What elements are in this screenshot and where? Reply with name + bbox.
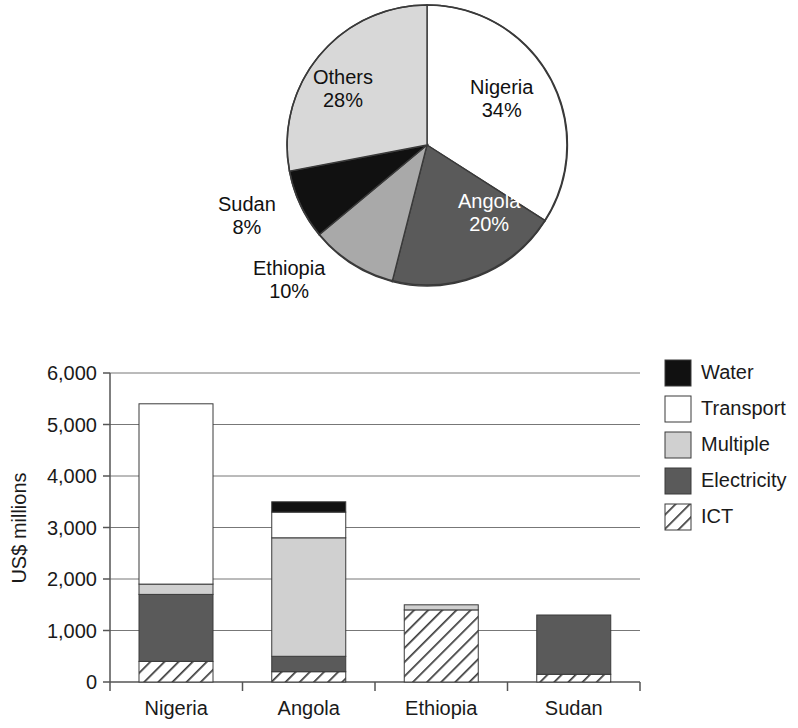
pie-label-sudan-name: Sudan [218, 193, 276, 215]
y-tick-3000: 3,000 [47, 517, 97, 539]
pie-label-angola-pct: 20% [458, 213, 520, 236]
bar-segment-angola-water [272, 502, 346, 512]
pie-label-nigeria-pct: 34% [470, 99, 533, 122]
y-tick-5000: 5,000 [47, 414, 97, 436]
y-axis-title: US$ millions [8, 472, 30, 583]
figure-container: Nigeria 34% Angola 20% Ethiopia 10% Suda… [0, 0, 798, 728]
pie-chart-svg [0, 0, 798, 330]
bar-segment-nigeria-ict [139, 661, 213, 682]
y-tick-labels: 6,000 5,000 4,000 3,000 2,000 1,000 0 [47, 362, 97, 693]
y-tick-2000: 2,000 [47, 568, 97, 590]
legend-label-ict: ICT [701, 505, 733, 527]
bar-group-nigeria [139, 404, 213, 682]
bar-chart: 6,000 5,000 4,000 3,000 2,000 1,000 0 US… [0, 330, 798, 728]
bar-segment-angola-ict [272, 672, 346, 682]
cat-label-sudan: Sudan [545, 697, 603, 719]
cat-label-angola: Angola [278, 697, 341, 719]
pie-label-nigeria: Nigeria 34% [470, 76, 533, 122]
y-axis [103, 373, 110, 682]
pie-label-ethiopia: Ethiopia 10% [253, 257, 325, 303]
bar-group-sudan [537, 615, 611, 682]
bar-segment-angola-multiple [272, 538, 346, 657]
legend-swatch-ict [665, 504, 691, 530]
bar-segment-ethiopia-ict [404, 610, 478, 682]
y-tick-4000: 4,000 [47, 465, 97, 487]
legend-swatch-water [665, 360, 691, 386]
y-tick-1000: 1,000 [47, 620, 97, 642]
pie-label-others-name: Others [313, 66, 373, 88]
legend-label-water: Water [701, 361, 754, 383]
pie-label-nigeria-name: Nigeria [470, 76, 533, 98]
pie-label-ethiopia-pct: 10% [253, 280, 325, 303]
legend-label-multiple: Multiple [701, 433, 770, 455]
bar-chart-svg: 6,000 5,000 4,000 3,000 2,000 1,000 0 US… [0, 330, 798, 728]
cat-label-ethiopia: Ethiopia [405, 697, 478, 719]
pie-label-sudan: Sudan 8% [218, 193, 276, 239]
x-category-labels: Nigeria Angola Ethiopia Sudan [145, 697, 603, 719]
cat-label-nigeria: Nigeria [145, 697, 209, 719]
bar-group-ethiopia [404, 605, 478, 682]
bar-segment-sudan-electricity [537, 615, 611, 674]
legend-swatch-electricity [665, 468, 691, 494]
pie-label-others-pct: 28% [313, 89, 373, 112]
pie-label-others: Others 28% [313, 66, 373, 112]
bar-segment-nigeria-multiple [139, 584, 213, 594]
legend: Water Transport Multiple Electricity ICT [665, 360, 787, 530]
y-tick-0: 0 [86, 671, 97, 693]
y-tick-6000: 6,000 [47, 362, 97, 384]
pie-chart: Nigeria 34% Angola 20% Ethiopia 10% Suda… [0, 0, 798, 330]
pie-label-angola: Angola 20% [458, 190, 520, 236]
bar-segment-sudan-ict [537, 674, 611, 682]
x-axis [110, 682, 640, 691]
pie-label-ethiopia-name: Ethiopia [253, 257, 325, 279]
pie-label-angola-name: Angola [458, 190, 520, 212]
bar-segment-ethiopia-multiple [404, 605, 478, 610]
bar-segment-nigeria-electricity [139, 594, 213, 661]
bar-segment-nigeria-transport [139, 404, 213, 584]
legend-swatch-multiple [665, 432, 691, 458]
legend-label-electricity: Electricity [701, 469, 787, 491]
pie-label-sudan-pct: 8% [218, 216, 276, 239]
bar-segment-angola-transport [272, 512, 346, 538]
bar-segment-angola-electricity [272, 656, 346, 671]
bar-group-angola [272, 502, 346, 682]
legend-swatch-transport [665, 396, 691, 422]
legend-label-transport: Transport [701, 397, 786, 419]
